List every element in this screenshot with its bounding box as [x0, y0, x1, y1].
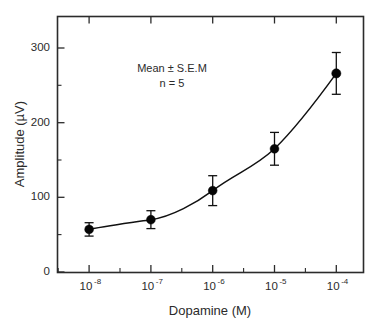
data-point-marker	[270, 144, 279, 153]
x-tick-mantissa-0: 10	[80, 280, 93, 292]
x-tick-mantissa-2: 10	[203, 280, 216, 292]
x-tick-exponent-0: -8	[94, 277, 102, 286]
annotation-n: n = 5	[160, 77, 185, 89]
y-tick-label-100: 100	[31, 190, 50, 202]
data-point-marker	[332, 69, 341, 78]
dose-response-chart: 0 100 200 300 10 -8 10 -7 10 -6 10 -5 10…	[0, 0, 381, 327]
x-tick-exponent-3: -5	[279, 277, 287, 286]
data-point-marker	[147, 215, 156, 224]
x-tick-mantissa-4: 10	[327, 280, 340, 292]
chart-figure: 0 100 200 300 10 -8 10 -7 10 -6 10 -5 10…	[0, 0, 381, 327]
x-tick-mantissa-1: 10	[141, 280, 154, 292]
y-axis-title: Amplitude (µV)	[12, 101, 27, 187]
x-tick-exponent-2: -6	[218, 277, 226, 286]
x-tick-exponent-1: -7	[156, 277, 164, 286]
annotation-mean-sem: Mean ± S.E.M	[137, 62, 207, 74]
y-tick-label-300: 300	[31, 41, 50, 53]
data-point-marker	[85, 225, 94, 234]
x-tick-mantissa-3: 10	[265, 280, 278, 292]
x-tick-exponent-4: -4	[341, 277, 349, 286]
y-tick-label-0: 0	[44, 265, 50, 277]
y-tick-label-200: 200	[31, 116, 50, 128]
data-point-marker	[208, 186, 217, 195]
x-axis-title: Dopamine (M)	[169, 303, 251, 318]
